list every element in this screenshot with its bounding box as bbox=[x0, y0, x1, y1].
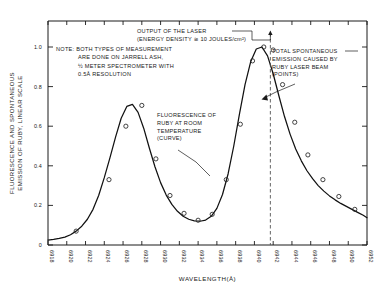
annotation-line: RUBY AT ROOM bbox=[157, 120, 202, 126]
x-tick-label: 6932 bbox=[181, 250, 187, 263]
annotation-line: FLUORESCENCE OF bbox=[157, 112, 216, 118]
x-tick-label: 6918 bbox=[49, 250, 55, 263]
y-tick-label: 0.2 bbox=[34, 202, 42, 208]
annotation-line: NOTE: BOTH TYPES OF MEASUREMENT bbox=[56, 46, 172, 52]
x-tick-label: 6928 bbox=[143, 250, 149, 263]
x-tick-label: 6940 bbox=[256, 250, 262, 263]
annotation-line: EMISSION CAUSED BY bbox=[272, 56, 338, 62]
y-tick-label: 0.6 bbox=[34, 123, 42, 129]
data-point bbox=[321, 178, 325, 182]
annotation-line: (CURVE) bbox=[157, 135, 182, 141]
annotation-line: TEMPERATURE bbox=[157, 128, 202, 134]
annotation-line: ½ METER SPECTROMETER WITH bbox=[78, 63, 174, 69]
x-tick-label: 6926 bbox=[124, 250, 130, 263]
x-tick-label: 6952 bbox=[368, 250, 374, 263]
y-axis-label: EMISSION OF RUBY, LINEAR SCALE bbox=[17, 75, 23, 190]
emission-arrowhead bbox=[262, 95, 269, 101]
x-tick-label: 6922 bbox=[87, 250, 93, 263]
annotation-fluorescence-curve: FLUORESCENCE OFRUBY AT ROOMTEMPERATURE(C… bbox=[157, 112, 216, 141]
annotation-line: TOTAL SPONTANEOUS bbox=[272, 48, 338, 54]
annotation-laser-output: OUTPUT OF THE LASER(ENERGY DENSITY ≅ 10 … bbox=[137, 28, 246, 42]
x-tick-label: 6934 bbox=[199, 250, 205, 263]
annotation-spontaneous-emission: TOTAL SPONTANEOUSEMISSION CAUSED BYRUBY … bbox=[272, 48, 338, 77]
annotation-line: 0.5Å RESOLUTION bbox=[78, 71, 131, 77]
x-tick-label: 6930 bbox=[162, 250, 168, 263]
data-point bbox=[306, 153, 310, 157]
ruby-fluorescence-plot: 6918692069226924692669286930693269346936… bbox=[0, 0, 378, 285]
fluorescence-leader-line bbox=[178, 150, 210, 176]
y-tick-label: 0.8 bbox=[34, 84, 42, 90]
x-tick-label: 6936 bbox=[218, 250, 224, 263]
data-point bbox=[293, 120, 297, 124]
data-point bbox=[280, 83, 284, 87]
data-point bbox=[154, 157, 158, 161]
x-tick-label: 6924 bbox=[105, 250, 111, 263]
data-point bbox=[182, 211, 186, 215]
x-tick-label: 6942 bbox=[274, 250, 280, 263]
data-point bbox=[107, 178, 111, 182]
x-tick-label: 6950 bbox=[349, 250, 355, 263]
annotation-line: (ENERGY DENSITY ≅ 10 JOULES/cm²) bbox=[137, 36, 246, 42]
annotation-line: RUBY LASER BEAM bbox=[272, 64, 329, 70]
y-tick-label: 0.4 bbox=[34, 163, 42, 169]
annotation-line: (POINTS) bbox=[272, 71, 299, 77]
annotation-note: NOTE: BOTH TYPES OF MEASUREMENTARE DONE … bbox=[56, 46, 174, 77]
x-tick-label: 6946 bbox=[312, 250, 318, 263]
x-tick-label: 6920 bbox=[68, 250, 74, 263]
x-tick-label: 6948 bbox=[331, 250, 337, 263]
data-point bbox=[124, 124, 128, 128]
x-tick-label: 6944 bbox=[293, 250, 299, 263]
chart-figure: 6918692069226924692669286930693269346936… bbox=[0, 0, 378, 285]
x-axis-label: WAVELENGTH(Å) bbox=[179, 275, 236, 282]
annotation-line: ARE DONE ON JARRELL ASH, bbox=[78, 54, 164, 60]
laser-output-arrowhead bbox=[268, 31, 272, 36]
y-tick-label: 0 bbox=[39, 242, 42, 248]
annotation-line: OUTPUT OF THE LASER bbox=[137, 28, 207, 34]
x-tick-label: 6938 bbox=[237, 250, 243, 263]
data-point bbox=[168, 193, 172, 197]
y-axis-label: FLUORESCENCE AND SPONTANEOUS bbox=[9, 72, 15, 194]
y-tick-label: 1.0 bbox=[34, 44, 42, 50]
data-point bbox=[238, 122, 242, 126]
data-point bbox=[140, 103, 144, 107]
data-point bbox=[337, 194, 341, 198]
